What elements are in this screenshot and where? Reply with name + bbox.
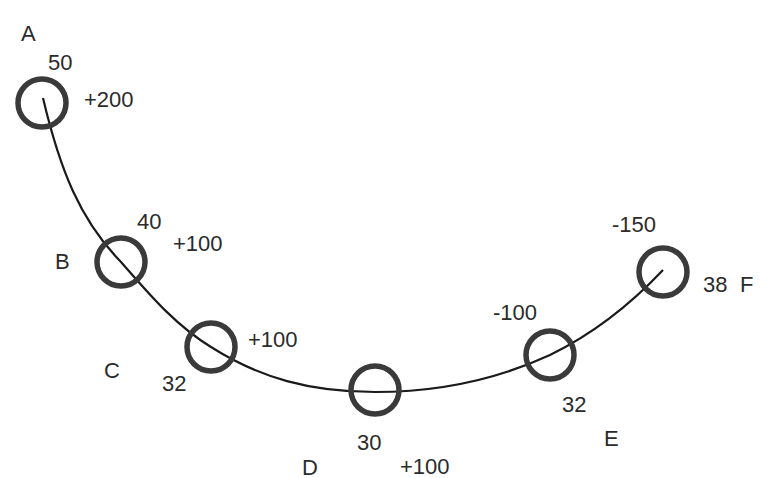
node-b-value: 40 [137, 211, 161, 233]
node-b-delta: +100 [173, 233, 223, 255]
node-b-label: B [55, 251, 70, 273]
arc-diagram [0, 0, 767, 478]
node-c-value: 32 [162, 373, 186, 395]
station-ring-a[interactable] [18, 79, 66, 127]
node-f-delta: -150 [612, 214, 656, 236]
node-a-label: A [21, 23, 36, 45]
node-e-delta: -100 [493, 302, 537, 324]
node-e-label: E [604, 428, 619, 450]
node-d-delta: +100 [400, 456, 450, 478]
node-a-delta: +200 [84, 89, 134, 111]
node-f-label: F [740, 274, 753, 296]
node-c-label: C [104, 360, 120, 382]
node-d-value: 30 [357, 432, 381, 454]
station-ring-f[interactable] [639, 248, 687, 296]
node-d-label: D [302, 457, 318, 478]
node-a-value: 50 [48, 52, 72, 74]
node-e-value: 32 [562, 394, 586, 416]
node-f-value: 38 [703, 274, 727, 296]
station-ring-d[interactable] [351, 366, 399, 414]
node-c-delta: +100 [248, 329, 298, 351]
